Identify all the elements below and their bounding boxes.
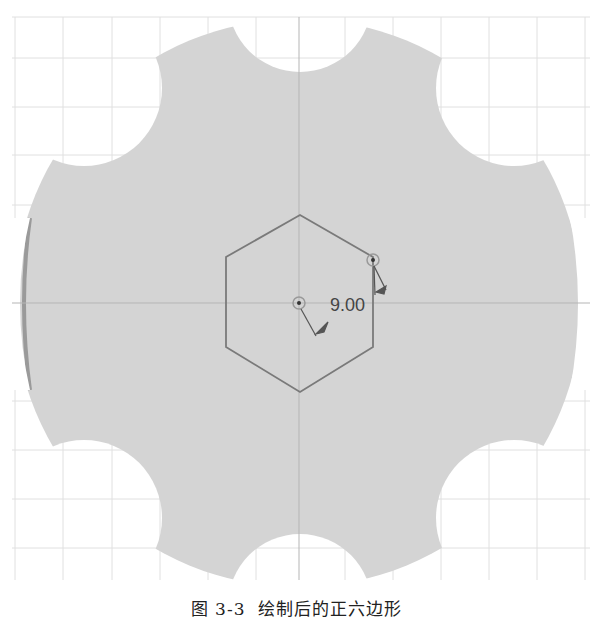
dimension-label[interactable]: 9.00 xyxy=(330,295,365,316)
figure-caption: 图 3-3 绘制后的正六边形 xyxy=(0,598,593,620)
